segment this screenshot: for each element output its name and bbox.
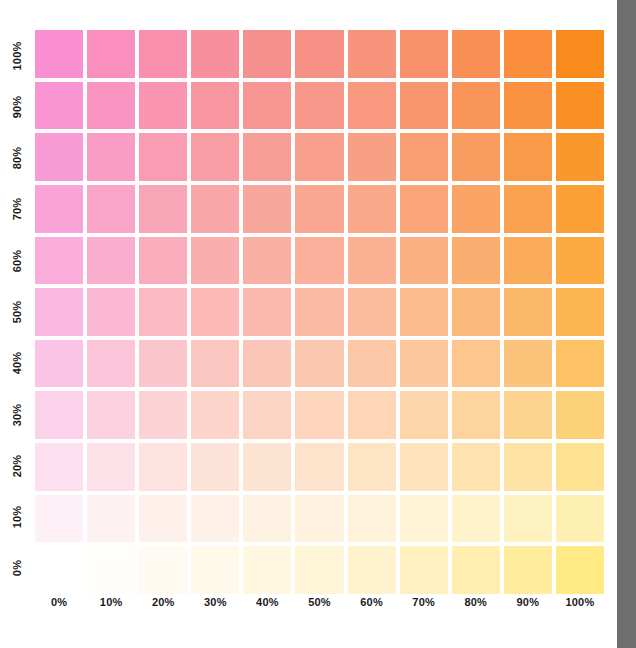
swatch	[556, 391, 604, 439]
y-axis-tick-label: 60%	[0, 235, 35, 286]
swatch	[191, 495, 239, 543]
x-axis-tick-label: 30%	[191, 596, 239, 618]
y-axis-tick-label: 80%	[0, 133, 35, 184]
swatch	[191, 237, 239, 285]
y-axis-tick-label: 90%	[0, 81, 35, 132]
page-edge-strip	[617, 0, 636, 648]
swatch	[87, 82, 135, 130]
swatch-grid	[35, 30, 604, 594]
x-axis-tick-label: 60%	[348, 596, 396, 618]
swatch	[452, 443, 500, 491]
swatch	[504, 133, 552, 181]
swatch	[556, 30, 604, 78]
swatch	[400, 237, 448, 285]
swatch	[400, 391, 448, 439]
color-chart-page: 100%90%80%70%60%50%40%30%20%10%0% 0%10%2…	[0, 0, 636, 648]
swatch	[139, 546, 187, 594]
swatch	[295, 133, 343, 181]
swatch	[35, 185, 83, 233]
x-axis-tick-label: 40%	[243, 596, 291, 618]
swatch	[400, 82, 448, 130]
swatch	[191, 30, 239, 78]
swatch	[35, 546, 83, 594]
swatch	[87, 546, 135, 594]
y-axis-tick-label: 100%	[0, 30, 35, 81]
swatch	[35, 443, 83, 491]
swatch	[243, 237, 291, 285]
x-axis: 0%10%20%30%40%50%60%70%80%90%100%	[35, 596, 604, 618]
swatch	[87, 443, 135, 491]
swatch	[295, 288, 343, 336]
swatch	[556, 340, 604, 388]
swatch	[504, 340, 552, 388]
x-axis-tick-label: 50%	[295, 596, 343, 618]
swatch	[243, 30, 291, 78]
swatch	[452, 288, 500, 336]
swatch	[452, 30, 500, 78]
swatch	[87, 340, 135, 388]
swatch	[295, 82, 343, 130]
x-axis-tick-label: 0%	[35, 596, 83, 618]
y-axis-tick-text: 20%	[12, 454, 24, 477]
color-swatch-chart	[35, 30, 604, 594]
swatch	[35, 391, 83, 439]
swatch	[556, 237, 604, 285]
swatch	[191, 185, 239, 233]
y-axis-tick-label: 10%	[0, 491, 35, 542]
swatch	[35, 133, 83, 181]
swatch	[295, 546, 343, 594]
y-axis-tick-text: 30%	[12, 403, 24, 426]
swatch	[139, 237, 187, 285]
swatch	[556, 133, 604, 181]
swatch	[556, 185, 604, 233]
swatch	[556, 546, 604, 594]
swatch	[400, 288, 448, 336]
swatch	[87, 237, 135, 285]
swatch	[139, 391, 187, 439]
swatch	[348, 340, 396, 388]
swatch	[243, 391, 291, 439]
swatch	[87, 391, 135, 439]
swatch	[295, 340, 343, 388]
swatch	[348, 288, 396, 336]
y-axis-tick-text: 70%	[12, 198, 24, 221]
swatch	[243, 288, 291, 336]
x-axis-tick-label: 70%	[400, 596, 448, 618]
swatch	[87, 30, 135, 78]
swatch	[452, 340, 500, 388]
swatch	[504, 495, 552, 543]
swatch	[139, 133, 187, 181]
swatch	[400, 546, 448, 594]
swatch	[87, 495, 135, 543]
swatch	[191, 288, 239, 336]
swatch	[556, 495, 604, 543]
swatch	[348, 185, 396, 233]
swatch	[191, 133, 239, 181]
swatch	[139, 443, 187, 491]
swatch	[348, 82, 396, 130]
swatch	[400, 443, 448, 491]
swatch	[452, 82, 500, 130]
swatch	[191, 340, 239, 388]
swatch	[504, 82, 552, 130]
swatch	[504, 443, 552, 491]
swatch	[348, 443, 396, 491]
swatch	[87, 185, 135, 233]
swatch	[191, 82, 239, 130]
y-axis-tick-label: 50%	[0, 286, 35, 337]
y-axis-tick-text: 60%	[12, 249, 24, 272]
swatch	[35, 495, 83, 543]
swatch	[139, 340, 187, 388]
y-axis-tick-text: 100%	[12, 41, 24, 70]
x-axis-tick-label: 80%	[452, 596, 500, 618]
y-axis-tick-label: 0%	[0, 543, 35, 594]
swatch	[35, 340, 83, 388]
y-axis-tick-text: 90%	[12, 96, 24, 119]
x-axis-tick-label: 10%	[87, 596, 135, 618]
y-axis-tick-text: 40%	[12, 352, 24, 375]
y-axis-tick-label: 70%	[0, 184, 35, 235]
swatch	[87, 288, 135, 336]
swatch	[556, 82, 604, 130]
swatch	[243, 340, 291, 388]
y-axis-tick-text: 50%	[12, 301, 24, 324]
